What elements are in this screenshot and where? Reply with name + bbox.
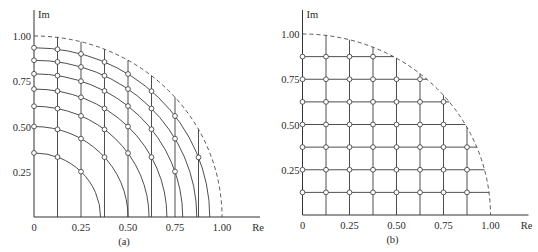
sample-point-marker [418,145,423,150]
sample-point-marker [324,190,329,195]
sample-point-marker [324,77,329,82]
y-tick-label: 1.00 [281,29,299,40]
sample-point-marker [371,190,376,195]
sample-point-marker [465,167,470,172]
sample-point-marker [441,122,446,127]
sample-point-marker [371,167,376,172]
sample-point-marker [394,122,399,127]
sample-point-marker [324,167,329,172]
sample-point-marker [394,145,399,150]
sample-point-marker [465,145,470,150]
sample-point-marker [300,54,305,59]
sample-point-marker [371,54,376,59]
sample-point-marker [371,145,376,150]
sample-point-marker [300,145,305,150]
panel-b-rectangular-grid: 00.250.500.751.000.250.500.751.00ReIm(b) [0,0,538,252]
sample-point-marker [394,77,399,82]
sample-point-marker [394,99,399,104]
x-axis-label: Re [521,220,533,231]
y-tick-label: 0.50 [281,120,299,131]
sample-point-marker [394,190,399,195]
sample-point-marker [371,77,376,82]
y-tick-label: 0.75 [281,74,299,85]
y-tick-label: 0.25 [281,165,299,176]
sample-point-marker [300,167,305,172]
sample-point-marker [300,99,305,104]
sample-point-marker [300,77,305,82]
sample-point-marker [418,122,423,127]
sample-point-marker [324,54,329,59]
y-axis-label: Im [307,9,319,20]
sample-point-marker [418,190,423,195]
sample-point-marker [347,77,352,82]
sample-point-marker [347,167,352,172]
sample-point-marker [418,167,423,172]
sample-point-marker [324,145,329,150]
x-tick-label: 1.00 [481,220,499,231]
sample-point-marker [347,99,352,104]
x-tick-label: 0 [300,220,305,231]
sample-point-marker [418,99,423,104]
sample-point-marker [394,167,399,172]
sample-point-marker [324,122,329,127]
sample-point-marker [441,145,446,150]
sample-point-marker [371,99,376,104]
sample-point-marker [300,190,305,195]
sample-point-marker [300,122,305,127]
sample-point-marker [347,190,352,195]
sample-point-marker [465,190,470,195]
x-tick-label: 0.50 [387,220,405,231]
panel-caption: (b) [386,234,399,246]
sample-point-marker [371,122,376,127]
sample-point-marker [441,167,446,172]
sample-point-marker [441,99,446,104]
figure: 00.250.500.751.000.250.500.751.00ReIm(a)… [0,0,538,252]
sample-point-marker [441,190,446,195]
sample-point-marker [418,77,423,82]
x-tick-label: 0.25 [340,220,358,231]
x-tick-label: 0.75 [434,220,452,231]
sample-point-marker [324,99,329,104]
sample-point-marker [347,122,352,127]
sample-point-marker [347,54,352,59]
sample-point-marker [347,145,352,150]
